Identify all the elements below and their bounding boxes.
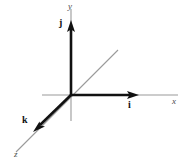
z-axis-label: z bbox=[14, 150, 18, 159]
vector-k bbox=[33, 95, 71, 132]
y-axis-label: y bbox=[68, 2, 72, 11]
vector-k-label: k bbox=[22, 115, 28, 125]
vector-i-label: i bbox=[128, 100, 131, 110]
coordinate-axes-figure: x y z i j k bbox=[0, 0, 187, 164]
z-axis-line bbox=[16, 50, 118, 152]
axes-vector-graphic bbox=[0, 0, 187, 164]
vector-k-shaft bbox=[40, 95, 71, 125]
vector-i bbox=[71, 91, 139, 99]
x-axis-label: x bbox=[172, 97, 176, 106]
vector-j bbox=[67, 20, 75, 95]
vector-j-label: j bbox=[59, 18, 62, 28]
